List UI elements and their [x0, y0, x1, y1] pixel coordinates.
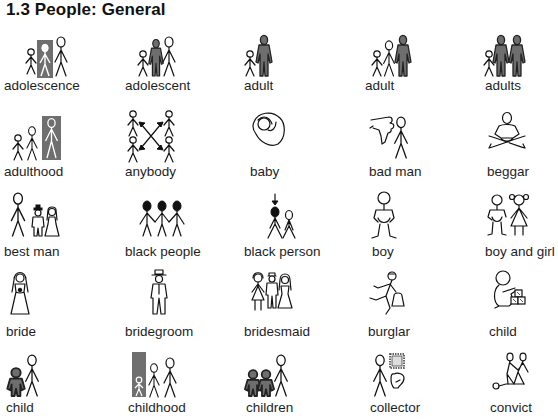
- boy-and-girl-icon: [485, 188, 558, 244]
- symbol-bad-man: bad man: [369, 108, 479, 186]
- symbol-anybody: anybody: [125, 108, 235, 186]
- symbol-label: boy and girl: [485, 244, 558, 259]
- children-icon: [246, 344, 356, 400]
- bridegroom-icon: [125, 268, 235, 324]
- adult-icon: [244, 22, 354, 78]
- bad-man-icon: [369, 108, 479, 164]
- symbol-label: adolescence: [4, 78, 114, 93]
- symbol-bridesmaid: bridesmaid: [244, 268, 354, 346]
- boy-icon: [372, 188, 482, 244]
- symbol-label: child: [489, 324, 558, 339]
- child-icon: [6, 344, 116, 400]
- black-person-icon: [244, 188, 354, 244]
- symbol-label: adult: [365, 78, 475, 93]
- child-toddler-icon: [489, 268, 558, 324]
- symbol-label: adulthood: [4, 164, 114, 179]
- symbol-label: bad man: [369, 164, 479, 179]
- symbol-label: bridegroom: [125, 324, 235, 339]
- symbol-adolescence: adolescence: [4, 22, 114, 100]
- symbol-label: childhood: [128, 400, 238, 415]
- symbol-label: boy: [372, 244, 482, 259]
- symbol-convict: convict: [490, 344, 558, 419]
- childhood-icon: [128, 344, 238, 400]
- symbol-adults: adults: [485, 22, 558, 100]
- adult-alt-icon: [365, 22, 475, 78]
- anybody-icon: [125, 108, 235, 164]
- adults-icon: [485, 22, 558, 78]
- symbol-label: burglar: [368, 324, 478, 339]
- black-people-icon: [125, 188, 235, 244]
- adolescence-icon: [4, 22, 114, 78]
- symbol-label: adolescent: [125, 78, 235, 93]
- symbol-children: children: [246, 344, 356, 419]
- symbol-baby: baby: [250, 108, 360, 186]
- symbol-bridegroom: bridegroom: [125, 268, 235, 346]
- symbol-adolescent: adolescent: [125, 22, 235, 100]
- burglar-icon: [368, 268, 478, 324]
- symbol-boy-and-girl: boy and girl: [485, 188, 558, 266]
- symbol-label: adults: [485, 78, 558, 93]
- symbol-black-person: black person: [244, 188, 354, 266]
- symbol-best-man: best man: [4, 188, 114, 266]
- symbol-childhood: childhood: [128, 344, 238, 419]
- symbol-label: anybody: [125, 164, 235, 179]
- symbol-label: bridesmaid: [244, 324, 354, 339]
- symbol-child: child: [6, 344, 116, 419]
- page-title: 1.3 People: General: [6, 0, 166, 20]
- best-man-icon: [4, 188, 114, 244]
- symbol-label: bride: [6, 324, 116, 339]
- symbol-label: children: [246, 400, 356, 415]
- symbol-label: black person: [244, 244, 354, 259]
- adulthood-icon: [4, 108, 114, 164]
- symbol-adult: adult: [244, 22, 354, 100]
- symbol-burglar: burglar: [368, 268, 478, 346]
- symbol-child-toddler: child: [489, 268, 558, 346]
- symbol-adulthood: adulthood: [4, 108, 114, 186]
- symbol-label: adult: [244, 78, 354, 93]
- baby-icon: [250, 108, 360, 164]
- symbol-label: baby: [250, 164, 360, 179]
- symbol-bride: bride: [6, 268, 116, 346]
- symbol-label: beggar: [487, 164, 558, 179]
- symbol-label: black people: [125, 244, 235, 259]
- symbol-beggar: beggar: [487, 108, 558, 186]
- symbol-black-people: black people: [125, 188, 235, 266]
- adolescent-icon: [125, 22, 235, 78]
- bride-icon: [6, 268, 116, 324]
- symbol-label: collector: [370, 400, 480, 415]
- symbol-collector: collector: [370, 344, 480, 419]
- symbol-boy: boy: [372, 188, 482, 266]
- symbol-adult-2: adult: [365, 22, 475, 100]
- beggar-icon: [487, 108, 558, 164]
- symbol-label: child: [6, 400, 116, 415]
- symbol-label: convict: [490, 400, 558, 415]
- bridesmaid-icon: [244, 268, 354, 324]
- symbol-label: best man: [4, 244, 114, 259]
- collector-icon: [370, 344, 480, 400]
- convict-icon: [490, 344, 558, 400]
